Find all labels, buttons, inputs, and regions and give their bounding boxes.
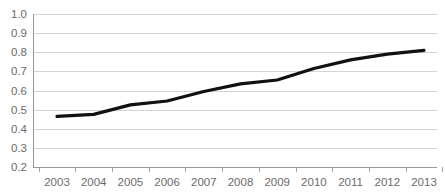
x-axis-tick-label: 2004: [81, 176, 107, 188]
y-axis-tick-label: 0.5: [11, 104, 27, 116]
x-axis-labels-group: 2003200420052006200720082009201020112012…: [44, 176, 437, 188]
y-axis-tick-label: 1.0: [11, 8, 27, 20]
x-axis-tick-label: 2012: [375, 176, 401, 188]
gridlines-group: [34, 15, 438, 149]
y-axis-tick-label: 0.4: [11, 123, 28, 135]
y-axis-tick-label: 0.7: [11, 65, 27, 77]
chart-canvas: 1.00.90.80.70.60.50.40.30.2 200320042005…: [0, 0, 445, 196]
y-axis-tick-label: 0.6: [11, 85, 27, 97]
x-axis-tick-label: 2008: [228, 176, 254, 188]
y-axis-tick-label: 0.8: [11, 46, 27, 58]
y-axis-tick-label: 0.3: [11, 142, 27, 154]
y-axis-labels-group: 1.00.90.80.70.60.50.40.30.2: [11, 8, 28, 173]
x-axis-tick-label: 2003: [44, 176, 70, 188]
data-series-line: [57, 50, 424, 116]
x-axis-tick-label: 2010: [301, 176, 327, 188]
x-axis-tick-label: 2007: [191, 176, 217, 188]
x-axis-tick-label: 2009: [264, 176, 290, 188]
x-axis-tick-label: 2013: [411, 176, 437, 188]
x-axis-tick-label: 2005: [118, 176, 144, 188]
y-axis-tick-label: 0.2: [11, 161, 27, 173]
x-axis-tick-label: 2011: [338, 176, 363, 188]
x-axis-tick-label: 2006: [154, 176, 180, 188]
y-axis-tick-label: 0.9: [11, 27, 27, 39]
line-chart: 1.00.90.80.70.60.50.40.30.2 200320042005…: [0, 0, 445, 196]
